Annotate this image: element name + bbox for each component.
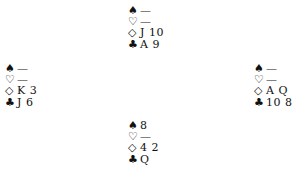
west-clubs-row: ♣J 6 bbox=[5, 97, 37, 108]
west-diamonds-row: ◇K 3 bbox=[5, 85, 37, 96]
east-diamonds: A Q bbox=[266, 85, 288, 96]
north-diamonds: J 10 bbox=[140, 27, 164, 38]
west-clubs: J 6 bbox=[17, 97, 33, 108]
north-clubs: A 9 bbox=[140, 39, 160, 50]
diamond-icon: ◇ bbox=[128, 142, 140, 153]
club-icon: ♣ bbox=[254, 97, 266, 108]
diamond-icon: ◇ bbox=[254, 85, 266, 96]
west-hand: ♠— ♡— ◇K 3 ♣J 6 bbox=[5, 63, 37, 108]
diamond-icon: ◇ bbox=[5, 85, 17, 96]
north-diamonds-row: ◇J 10 bbox=[128, 27, 164, 38]
east-clubs-row: ♣10 8 bbox=[254, 97, 293, 108]
north-hand: ♠— ♡— ◇J 10 ♣A 9 bbox=[128, 5, 164, 50]
club-icon: ♣ bbox=[128, 39, 140, 50]
west-diamonds: K 3 bbox=[17, 85, 37, 96]
south-clubs: Q bbox=[140, 154, 150, 165]
south-hand: ♠8 ♡— ◇4 2 ♣Q bbox=[128, 120, 159, 165]
south-diamonds-row: ◇4 2 bbox=[128, 142, 159, 153]
club-icon: ♣ bbox=[128, 154, 140, 165]
east-clubs: 10 8 bbox=[266, 97, 293, 108]
south-diamonds: 4 2 bbox=[140, 142, 159, 153]
east-diamonds-row: ◇A Q bbox=[254, 85, 293, 96]
club-icon: ♣ bbox=[5, 97, 17, 108]
east-hand: ♠— ♡— ◇A Q ♣10 8 bbox=[254, 63, 293, 108]
north-clubs-row: ♣A 9 bbox=[128, 39, 164, 50]
diamond-icon: ◇ bbox=[128, 27, 140, 38]
south-clubs-row: ♣Q bbox=[128, 154, 159, 165]
